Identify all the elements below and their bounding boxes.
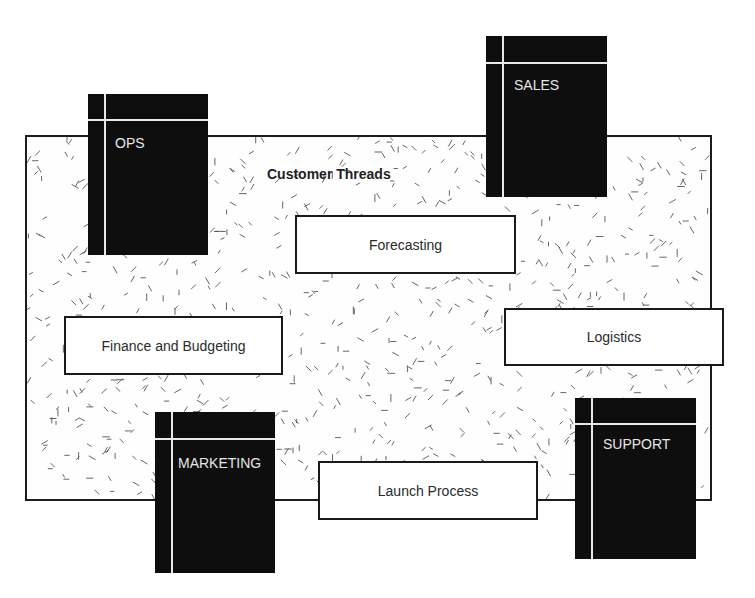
department-label: SUPPORT	[603, 436, 670, 452]
department-label: MARKETING	[178, 455, 261, 471]
department-marketing[interactable]: MARKETING	[155, 412, 275, 573]
process-finance-and-budgeting[interactable]: Finance and Budgeting	[64, 316, 283, 375]
diagram-title: Customer Threads	[267, 166, 391, 182]
process-label: Finance and Budgeting	[102, 338, 246, 354]
department-ops[interactable]: OPS	[88, 94, 208, 255]
process-forecasting[interactable]: Forecasting	[295, 215, 516, 274]
process-launch[interactable]: Launch Process	[318, 461, 538, 520]
divider-vertical	[502, 36, 504, 197]
divider-horizontal	[88, 119, 208, 121]
process-label: Launch Process	[378, 483, 478, 499]
divider-horizontal	[155, 438, 275, 440]
department-sales[interactable]: SALES	[486, 36, 607, 197]
department-support[interactable]: SUPPORT	[575, 398, 696, 559]
department-label: SALES	[514, 77, 559, 93]
department-label: OPS	[115, 135, 145, 151]
process-label: Forecasting	[369, 237, 442, 253]
divider-vertical	[171, 412, 173, 573]
process-label: Logistics	[587, 329, 641, 345]
divider-horizontal	[575, 423, 696, 425]
process-logistics[interactable]: Logistics	[504, 308, 724, 366]
divider-horizontal	[486, 62, 607, 64]
